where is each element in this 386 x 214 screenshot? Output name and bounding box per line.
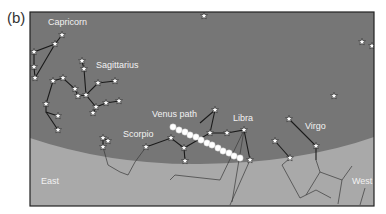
libra-label: Libra <box>233 113 253 123</box>
venus-path-label: Venus path <box>152 109 197 119</box>
venus-position-dot <box>198 137 204 143</box>
venus-position-dot <box>231 153 237 159</box>
sky-diagram: CapricornSagittariusVenus pathLibraScorp… <box>0 0 386 214</box>
venus-position-dot <box>209 142 215 148</box>
scorpio-label: Scorpio <box>123 129 154 139</box>
west-label: West <box>352 176 373 186</box>
venus-position-dot <box>220 148 226 154</box>
virgo-label: Virgo <box>305 121 326 131</box>
capricorn-label: Capricorn <box>48 17 87 27</box>
venus-position-dot <box>176 127 182 133</box>
venus-position-dot <box>170 124 176 130</box>
east-label: East <box>41 176 60 186</box>
sagittarius-label: Sagittarius <box>96 60 139 70</box>
venus-position-dot <box>237 155 243 161</box>
venus-position-dot <box>187 132 193 138</box>
